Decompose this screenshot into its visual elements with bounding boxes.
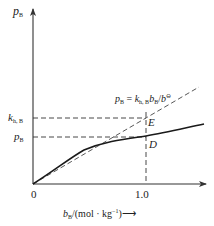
real-pressure-curve — [33, 124, 204, 184]
x-axis-label: bB/(mol · kg−1)⟶ — [63, 208, 136, 220]
y-tick-kh: kh, B — [8, 112, 23, 124]
henry-law-equation: pB = kh, BbB/b⊖ — [115, 93, 171, 105]
origin-label: 0 — [31, 189, 37, 200]
y-axis-label: pB — [13, 5, 23, 18]
point-d-label: D — [149, 139, 157, 150]
x-tick-1: 1.0 — [135, 189, 149, 200]
y-tick-pb: pB — [14, 131, 24, 143]
point-e-label: E — [148, 117, 155, 128]
